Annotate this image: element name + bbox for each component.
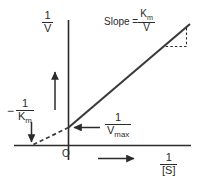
x-intercept-minus-sign: − bbox=[7, 104, 14, 118]
x-intercept-label: 1 Km bbox=[16, 98, 34, 125]
slope-numerator-subscript: m bbox=[147, 13, 153, 22]
y-axis-label-denominator: V bbox=[42, 22, 53, 35]
slope-annotation: Slope =KmV bbox=[104, 9, 155, 33]
y-axis-label-numerator: 1 bbox=[42, 10, 53, 22]
x-intercept-denominator-subscript: m bbox=[25, 116, 32, 125]
slope-equation-text: Slope = bbox=[104, 16, 138, 27]
y-intercept-numerator: 1 bbox=[105, 112, 131, 124]
origin-label: O bbox=[62, 148, 70, 159]
x-axis-label-denominator: [S] bbox=[160, 164, 177, 177]
slope-fraction: KmV bbox=[138, 9, 155, 33]
y-intercept-denominator: Vmax bbox=[105, 124, 131, 140]
slope-numerator-base: K bbox=[140, 8, 147, 19]
y-intercept-label: 1 Vmax bbox=[105, 112, 131, 139]
x-intercept-denominator: Km bbox=[16, 110, 34, 126]
x-axis-label: 1 [S] bbox=[160, 152, 177, 176]
x-intercept-numerator: 1 bbox=[16, 98, 34, 110]
x-axis-label-numerator: 1 bbox=[160, 152, 177, 164]
y-intercept-denominator-subscript: max bbox=[114, 130, 129, 139]
slope-denominator: V bbox=[138, 22, 155, 34]
lineweaver-burk-plot: 1 V 1 [S] − 1 Km 1 Vmax Slope =KmV O bbox=[0, 0, 200, 190]
extrapolation-dashed-line bbox=[32, 128, 69, 146]
y-axis-label: 1 V bbox=[42, 10, 53, 34]
slope-numerator: Km bbox=[138, 9, 155, 22]
